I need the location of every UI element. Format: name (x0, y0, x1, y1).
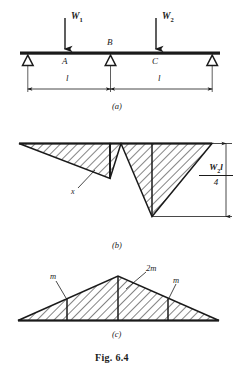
load-label-w1: W1 (71, 12, 83, 23)
pin-support-right-icon (207, 55, 218, 65)
span-label-left: l (66, 74, 69, 83)
beam-member (20, 52, 220, 55)
leader-line-x (78, 170, 95, 188)
figure-caption: Fig. 6.4 (95, 352, 129, 363)
pin-support-middle-icon (105, 55, 116, 65)
moment-value-numerator: W2l (199, 163, 233, 176)
dimension-label-x: x (71, 188, 75, 196)
panel-a-group (20, 18, 220, 92)
pin-support-left-icon (23, 55, 34, 65)
load-label-w2: W2 (162, 12, 174, 23)
moment-label-m-left: m (50, 272, 56, 281)
figure-6-4: W1 W2 A B C l l (a) x W2l 4 (b) m 2m m (… (0, 0, 239, 371)
leader-line-m-left (56, 281, 66, 298)
moment-value-label: W2l 4 (199, 163, 233, 187)
moment-label-m-right: m (173, 276, 179, 285)
point-label-c: C (152, 57, 158, 66)
panel-tag-c: (c) (112, 330, 121, 339)
panel-tag-b: (b) (112, 241, 122, 250)
panel-c-group (18, 272, 219, 321)
moment-label-2m: 2m (146, 264, 156, 273)
point-label-a: A (62, 57, 68, 66)
panel-tag-a: (a) (112, 102, 122, 111)
moment-value-denominator: 4 (199, 176, 233, 187)
span-label-right: l (158, 74, 161, 83)
point-label-b: B (107, 38, 113, 47)
leader-line-m-right (169, 284, 176, 298)
